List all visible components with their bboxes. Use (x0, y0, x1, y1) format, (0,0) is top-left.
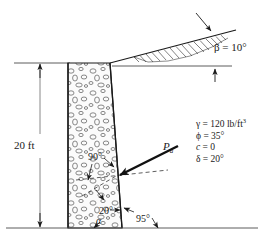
alpha-angle-label: α (96, 216, 101, 226)
stone-masonry-wall (68, 63, 122, 228)
unit-weight-row: γ = 120 lb/ft3 (196, 115, 246, 131)
twenty-degree-label: 20° (99, 206, 113, 216)
unit-weight-exponent: 3 (243, 117, 246, 124)
wall-friction-row: δ = 20° (196, 154, 246, 166)
ninety-five-degree-label: 95° (136, 214, 150, 224)
wall-height-label: 20 ft (14, 140, 34, 151)
active-pressure-force-label: Pa (163, 141, 173, 155)
ground-surface-line (14, 63, 232, 66)
cohesion-row: c = 0 (196, 142, 246, 154)
beta-angle-label: β = 10° (214, 42, 247, 53)
retaining-wall-figure: β = 10° 20 ft 90° 20° α 95° Pa γ = 120 l… (0, 0, 270, 242)
slope-indicator-arrow (196, 13, 211, 31)
force-symbol: P (163, 140, 170, 152)
force-subscript: a (170, 147, 174, 155)
soil-properties-block: γ = 120 lb/ft3 ϕ = 35° c = 0 δ = 20° (196, 115, 246, 165)
unit-weight-value: = 120 lb/ft (200, 119, 243, 129)
cohesion-value: = 0 (200, 142, 215, 152)
friction-angle-row: ϕ = 35° (196, 131, 246, 143)
ninety-degree-label: 90° (88, 152, 102, 162)
